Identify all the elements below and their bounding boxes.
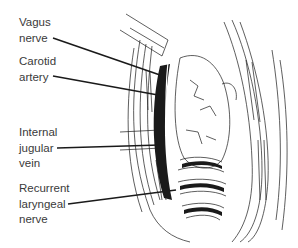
leader-internal-jugular-vein — [57, 145, 160, 148]
anatomical-illustration — [0, 0, 298, 248]
leader-carotid-artery — [53, 76, 158, 95]
leader-recurrent-laryngeal-nerve — [68, 190, 176, 204]
carotid-sheath — [154, 64, 172, 200]
